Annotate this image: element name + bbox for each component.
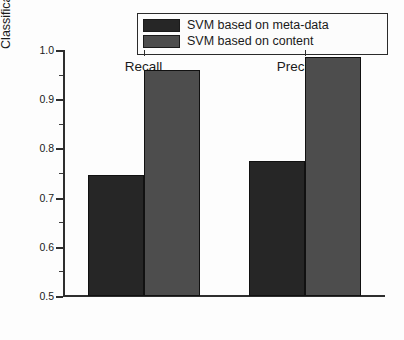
y-tick-label: 0.5 xyxy=(39,290,54,302)
legend-label-meta-data: SVM based on meta-data xyxy=(187,19,329,32)
y-axis-title: Classification Accuracy xyxy=(0,0,13,80)
plot-area: 0.50.60.70.80.91.0 RecallPrecision xyxy=(63,50,385,296)
y-minor-tick-mark xyxy=(59,271,63,272)
y-tick-mark xyxy=(56,50,63,52)
y-minor-tick-mark xyxy=(59,124,63,125)
legend-swatch-meta-data xyxy=(143,19,180,32)
y-minor-tick-mark xyxy=(59,75,63,76)
bar-recall-series2 xyxy=(144,70,200,296)
bar-recall-series1 xyxy=(88,175,144,296)
bar-precision-series2 xyxy=(305,57,361,296)
legend-entry-meta-data: SVM based on meta-data xyxy=(143,18,382,33)
y-tick-label: 0.6 xyxy=(39,241,54,253)
y-minor-tick-mark xyxy=(59,173,63,174)
x-tick-mark xyxy=(144,50,145,56)
y-tick-label: 0.9 xyxy=(39,93,54,105)
y-tick-mark xyxy=(56,296,63,298)
legend-swatch-content xyxy=(143,35,180,48)
y-tick-mark xyxy=(56,99,63,101)
y-minor-tick-mark xyxy=(59,222,63,223)
y-tick-mark xyxy=(56,198,63,200)
bar-chart-figure: SVM based on meta-data SVM based on cont… xyxy=(0,0,404,340)
y-tick-label: 0.7 xyxy=(39,192,54,204)
legend-label-content: SVM based on content xyxy=(187,35,313,48)
y-tick-mark xyxy=(56,247,63,249)
y-tick-mark xyxy=(56,148,63,150)
bar-precision-series1 xyxy=(249,161,305,296)
chart-legend: SVM based on meta-data SVM based on cont… xyxy=(137,13,388,55)
x-tick-mark xyxy=(305,50,306,56)
legend-entry-content: SVM based on content xyxy=(143,34,382,49)
y-tick-label: 1.0 xyxy=(39,44,54,56)
y-tick-label: 0.8 xyxy=(39,142,54,154)
